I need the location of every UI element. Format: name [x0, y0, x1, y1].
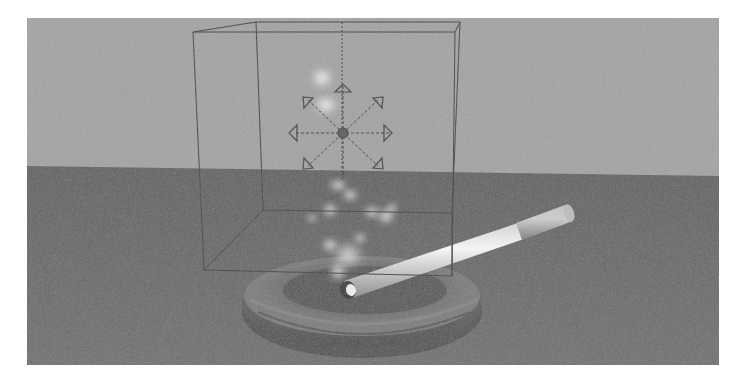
3d-viewport[interactable]: Smoke particle emitter over cigarette in… [27, 18, 719, 365]
